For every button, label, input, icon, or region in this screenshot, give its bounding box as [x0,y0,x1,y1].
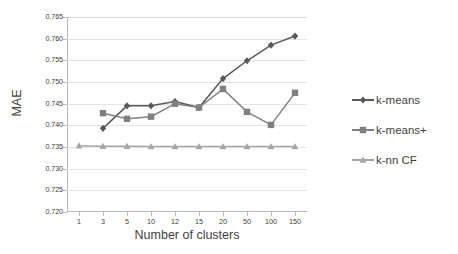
data-point-marker [148,113,154,119]
legend-item-k-nn-cf[interactable]: k-nn CF [352,148,458,172]
x-tick-mark [247,212,248,216]
data-point-marker [292,32,298,39]
data-point-marker [292,90,298,96]
series-k-means- [100,86,298,128]
x-tick-mark [295,212,296,216]
data-point-marker [220,86,226,92]
data-point-marker [360,96,366,103]
data-point-marker [244,109,250,115]
x-tick-mark [175,212,176,216]
legend-label: k-means [376,94,420,106]
legend-label: k-nn CF [376,154,417,166]
data-point-marker [124,116,130,122]
legend-label: k-means+ [376,124,427,136]
legend-marker-diamond-icon [352,94,374,106]
x-tick-mark [127,212,128,216]
x-tick-mark [223,212,224,216]
chart-legend: k-meansk-means+k-nn CF [352,88,458,178]
data-point-marker [360,157,367,163]
data-point-marker [100,110,106,116]
x-tick-mark [199,212,200,216]
data-point-marker [268,122,274,128]
legend-item-k-means-[interactable]: k-means+ [352,118,458,142]
x-tick-mark [151,212,152,216]
x-axis-title: Number of clusters [67,228,307,242]
x-tick-label: 150 [280,217,310,226]
x-tick-mark [79,212,80,216]
chart-container: MAE 0.7650.7600.7550.7500.7450.7400.7350… [0,0,458,254]
data-point-marker [268,42,274,49]
data-point-marker [360,127,366,133]
legend-item-k-means[interactable]: k-means [352,88,458,112]
x-tick-mark [103,212,104,216]
data-point-marker [196,104,202,110]
legend-marker-triangle-icon [352,154,374,166]
data-point-marker [148,102,154,109]
series-line [103,36,295,128]
series-line [79,146,295,147]
legend-marker-square-icon [352,124,374,136]
x-tick-mark [271,212,272,216]
series-k-nn-cf [76,142,299,149]
data-point-marker [172,100,178,106]
